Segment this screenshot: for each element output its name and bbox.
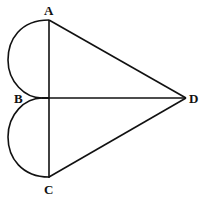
segment-ad: [49, 20, 186, 98]
geometry-diagram: A B C D: [0, 0, 207, 201]
label-b: B: [14, 92, 23, 105]
segment-cd: [49, 98, 186, 177]
label-d: D: [189, 92, 198, 105]
label-c: C: [44, 183, 53, 196]
lower-semicircle: [8, 98, 49, 177]
label-a: A: [44, 4, 53, 17]
diagram-canvas: [0, 0, 207, 201]
upper-semicircle: [8, 20, 49, 98]
